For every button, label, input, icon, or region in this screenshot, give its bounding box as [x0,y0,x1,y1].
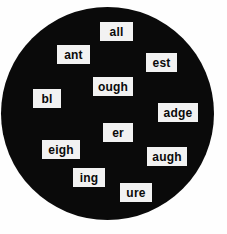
word-chunk-tile[interactable]: augh [147,147,187,166]
word-chunk-tile[interactable]: est [146,53,177,72]
word-chunk-tile[interactable]: ough [93,77,133,96]
word-chunk-tile[interactable]: adge [158,103,198,122]
word-chunk-circle-graphic: allantestoughbladgeereighaughingure [0,0,227,234]
word-chunk-tile[interactable]: er [103,123,133,142]
word-chunk-tile[interactable]: ant [57,45,90,64]
word-chunk-tile[interactable]: bl [33,89,61,108]
word-chunk-tile[interactable]: all [100,22,133,41]
word-chunk-tile[interactable]: ing [73,168,105,187]
word-chunk-tile[interactable]: ure [120,183,152,202]
word-chunk-tile[interactable]: eigh [42,140,80,159]
